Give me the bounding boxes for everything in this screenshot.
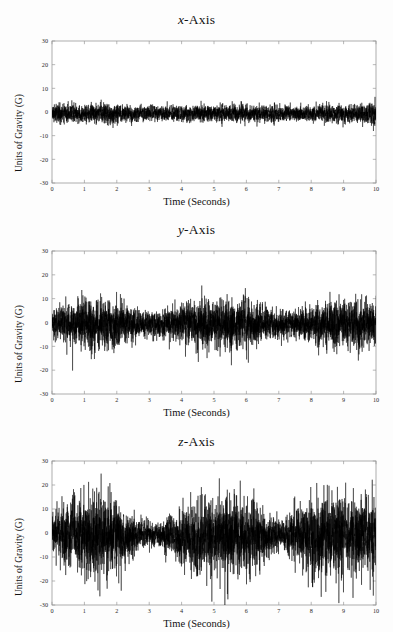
x-tick-label: 3 bbox=[148, 185, 151, 192]
x-tick-label: 2 bbox=[115, 607, 118, 614]
x-tick-label: 3 bbox=[148, 396, 151, 403]
y-tick-label: -30 bbox=[40, 179, 48, 186]
y-tick-label: 30 bbox=[42, 247, 48, 254]
x-tick-label: 6 bbox=[245, 607, 248, 614]
y-tick-label: -20 bbox=[40, 366, 48, 373]
plot-area-x: -30-20-100102030012345678910 bbox=[0, 0, 393, 200]
y-tick-label: 0 bbox=[45, 108, 48, 115]
x-tick-label: 3 bbox=[148, 607, 151, 614]
x-tick-label: 5 bbox=[212, 396, 215, 403]
y-axis-title-x: Units of Gravity (G) bbox=[14, 94, 24, 172]
y-tick-label: -30 bbox=[40, 390, 48, 397]
x-tick-label: 9 bbox=[342, 185, 345, 192]
y-tick-label: -10 bbox=[40, 553, 48, 560]
x-tick-label: 9 bbox=[342, 396, 345, 403]
chart-panel-x: x-Axis -30-20-100102030012345678910 Unit… bbox=[0, 0, 393, 215]
x-axis-title-x: Time (Seconds) bbox=[0, 196, 393, 207]
x-tick-label: 0 bbox=[50, 185, 53, 192]
y-tick-label: -30 bbox=[40, 601, 48, 608]
y-tick-label: 0 bbox=[45, 529, 48, 536]
y-tick-label: 10 bbox=[42, 295, 48, 302]
x-tick-label: 1 bbox=[83, 185, 86, 192]
x-tick-label: 10 bbox=[373, 396, 379, 403]
x-tick-label: 10 bbox=[373, 185, 379, 192]
x-tick-label: 7 bbox=[277, 396, 280, 403]
x-tick-label: 6 bbox=[245, 185, 248, 192]
y-tick-label: -10 bbox=[40, 343, 48, 350]
plot-area-y: -30-20-100102030012345678910 bbox=[0, 213, 393, 413]
x-axis-title-z: Time (Seconds) bbox=[0, 618, 393, 629]
y-tick-label: -20 bbox=[40, 577, 48, 584]
chart-panel-y: y-Axis -30-20-100102030012345678910 Unit… bbox=[0, 213, 393, 430]
y-tick-label: 30 bbox=[42, 457, 48, 464]
y-tick-label: -20 bbox=[40, 156, 48, 163]
x-tick-label: 1 bbox=[83, 396, 86, 403]
x-tick-label: 8 bbox=[310, 396, 313, 403]
y-tick-label: 20 bbox=[42, 61, 48, 68]
y-axis-title-z: Units of Gravity (G) bbox=[14, 518, 24, 596]
y-tick-label: 20 bbox=[42, 271, 48, 278]
x-tick-label: 0 bbox=[50, 396, 53, 403]
x-tick-label: 7 bbox=[277, 185, 280, 192]
y-tick-label: -10 bbox=[40, 132, 48, 139]
x-tick-label: 5 bbox=[212, 185, 215, 192]
x-tick-label: 7 bbox=[277, 607, 280, 614]
figure-page: x-Axis -30-20-100102030012345678910 Unit… bbox=[0, 0, 393, 632]
x-tick-label: 2 bbox=[115, 396, 118, 403]
x-tick-label: 4 bbox=[180, 396, 183, 403]
y-tick-label: 10 bbox=[42, 85, 48, 92]
plot-area-z: -30-20-100102030012345678910 bbox=[0, 428, 393, 624]
x-tick-label: 4 bbox=[180, 185, 183, 192]
x-tick-label: 6 bbox=[245, 396, 248, 403]
y-tick-label: 20 bbox=[42, 481, 48, 488]
x-tick-label: 8 bbox=[310, 185, 313, 192]
y-axis-title-y: Units of Gravity (G) bbox=[14, 305, 24, 383]
x-tick-label: 2 bbox=[115, 185, 118, 192]
x-tick-label: 9 bbox=[342, 607, 345, 614]
y-tick-label: 10 bbox=[42, 505, 48, 512]
x-tick-label: 1 bbox=[83, 607, 86, 614]
x-axis-title-y: Time (Seconds) bbox=[0, 407, 393, 418]
x-tick-label: 4 bbox=[180, 607, 183, 614]
chart-panel-z: z-Axis -30-20-100102030012345678910 Unit… bbox=[0, 428, 393, 632]
x-tick-label: 5 bbox=[212, 607, 215, 614]
x-tick-label: 0 bbox=[50, 607, 53, 614]
x-tick-label: 10 bbox=[373, 607, 379, 614]
x-tick-label: 8 bbox=[310, 607, 313, 614]
y-tick-label: 30 bbox=[42, 37, 48, 44]
y-tick-label: 0 bbox=[45, 319, 48, 326]
